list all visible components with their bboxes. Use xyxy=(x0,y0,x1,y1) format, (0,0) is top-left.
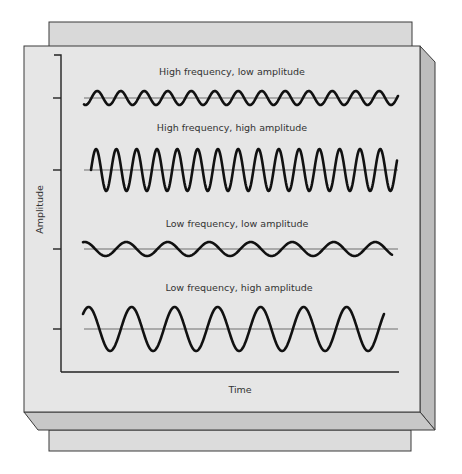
panel-bevel-bottom xyxy=(24,412,435,430)
wave-title-high-freq-high-amp: High frequency, high amplitude xyxy=(157,122,307,133)
wave-title-low-freq-low-amp: Low frequency, low amplitude xyxy=(166,218,309,229)
x-axis-label: Time xyxy=(228,384,251,395)
back-panel-bottom xyxy=(49,430,411,451)
waveform-diagram: High frequency, low amplitude High frequ… xyxy=(0,0,462,474)
wave-title-high-freq-low-amp: High frequency, low amplitude xyxy=(159,66,305,77)
y-axis-label: Amplitude xyxy=(34,183,45,237)
wave-title-low-freq-high-amp: Low frequency, high amplitude xyxy=(165,282,312,293)
panel-bevel-right xyxy=(420,46,435,430)
back-panel-top xyxy=(49,22,412,47)
